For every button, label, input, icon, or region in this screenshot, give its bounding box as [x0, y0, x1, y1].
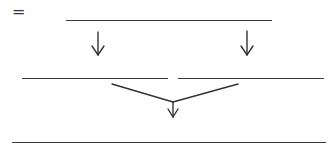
down-arrow-icon-left — [92, 32, 104, 55]
down-arrow-icon-merge — [168, 102, 178, 117]
merge-lines — [112, 84, 238, 102]
down-arrow-icon-right — [241, 31, 253, 55]
arrows-layer — [0, 0, 331, 146]
